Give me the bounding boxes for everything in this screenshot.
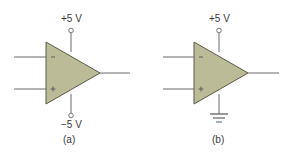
top-supply-terminal-b (217, 28, 222, 33)
opamp-triangle-b (194, 42, 248, 104)
top-supply-terminal-a (69, 28, 74, 33)
caption-a: (a) (63, 135, 75, 145)
top-supply-label-b: +5 V (209, 14, 230, 24)
bottom-supply-label-a: −5 V (61, 120, 82, 130)
panel-a-opamp (14, 28, 130, 118)
bottom-supply-terminal-a (69, 113, 74, 118)
schematic-canvas (0, 0, 289, 159)
top-supply-label-a: +5 V (61, 14, 82, 24)
opamp-triangle-a (46, 42, 100, 104)
caption-b: (b) (212, 135, 224, 145)
op-amp-figure: +5 V −5 V (a) +5 V (b) (0, 0, 289, 159)
ground-icon (210, 114, 228, 122)
panel-b-opamp (163, 28, 279, 122)
